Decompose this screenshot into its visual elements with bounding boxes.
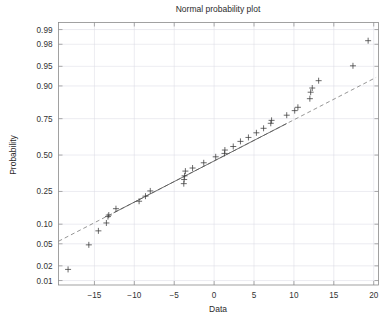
data-point-marker <box>365 38 371 44</box>
data-point-marker <box>86 242 92 248</box>
y-axis-label: Probability <box>8 134 18 174</box>
data-point-marker <box>95 228 101 234</box>
data-point-marker <box>284 112 290 118</box>
data-point-marker <box>268 120 274 126</box>
data-point-marker <box>136 198 142 204</box>
data-point-marker <box>181 181 187 187</box>
x-tick-label: −10 <box>127 291 141 300</box>
data-point-marker <box>295 104 301 110</box>
data-point-marker <box>103 220 109 226</box>
data-point-marker <box>106 212 112 218</box>
x-tick-label: 0 <box>212 291 217 300</box>
x-tick-label: 15 <box>329 291 339 300</box>
y-tick-label: 0.95 <box>37 62 53 71</box>
x-axis-label: Data <box>209 304 227 314</box>
y-tick-label: 0.75 <box>37 115 53 124</box>
x-tick-label: −5 <box>170 291 180 300</box>
data-point-marker <box>230 143 236 149</box>
y-tick-label: 0.05 <box>37 240 53 249</box>
data-point-marker <box>269 117 275 123</box>
data-point-marker <box>65 266 71 272</box>
data-point-marker <box>142 193 148 199</box>
x-tick-label: 20 <box>369 291 379 300</box>
y-tick-label: 0.02 <box>37 262 53 271</box>
data-point-marker <box>292 108 298 114</box>
data-point-marker <box>316 78 322 84</box>
y-tick-label: 0.90 <box>37 82 53 91</box>
data-point-marker <box>222 147 228 153</box>
x-tick-label: 5 <box>252 291 257 300</box>
data-point-marker <box>182 168 188 174</box>
data-point-marker <box>261 125 267 131</box>
y-tick-label: 0.98 <box>37 40 53 49</box>
grid-layer <box>59 23 379 286</box>
data-point-marker <box>350 63 356 69</box>
y-tick-label: 0.50 <box>37 151 53 160</box>
data-point-marker <box>308 89 314 95</box>
data-point-marker <box>245 134 251 140</box>
data-point-marker <box>307 96 313 102</box>
data-point-marker <box>237 138 243 144</box>
y-tick-label: 0.25 <box>37 187 53 196</box>
data-point-marker <box>182 173 188 179</box>
tick-marks-layer <box>59 23 379 286</box>
x-tick-label: 10 <box>289 291 299 300</box>
y-tick-label: 0.10 <box>37 220 53 229</box>
data-point-marker <box>253 130 259 136</box>
x-tick-label: −15 <box>87 291 101 300</box>
x-tick-labels: −15−10−505101520 <box>87 291 378 300</box>
chart-title: Normal probability plot <box>176 4 261 14</box>
y-tick-label: 0.01 <box>37 277 53 286</box>
chart-canvas: 0.010.020.050.100.250.500.750.900.950.98… <box>0 0 390 319</box>
normal-probability-plot-figure: 0.010.020.050.100.250.500.750.900.950.98… <box>0 0 390 319</box>
y-tick-label: 0.99 <box>37 26 53 35</box>
data-point-marker <box>190 165 196 171</box>
y-tick-labels: 0.010.020.050.100.250.500.750.900.950.98… <box>37 26 53 286</box>
data-point-marker <box>221 150 227 156</box>
plot-frame <box>59 23 379 286</box>
